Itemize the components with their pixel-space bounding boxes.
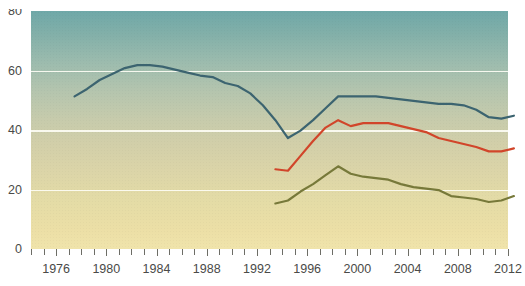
- x-tick: [106, 249, 107, 256]
- x-tick: [495, 249, 496, 255]
- x-tick: [357, 249, 358, 256]
- x-tick-label: 1996: [293, 262, 321, 276]
- y-tick-label: 20: [8, 183, 22, 197]
- series-lines: [62, 22, 525, 260]
- x-tick: [270, 249, 271, 255]
- x-tick: [470, 249, 471, 255]
- x-tick-label: 1980: [92, 262, 120, 276]
- x-tick: [207, 249, 208, 256]
- x-tick-label: 1976: [42, 262, 70, 276]
- x-tick-label: 2012: [494, 262, 522, 276]
- plot-area: [31, 11, 508, 249]
- x-tick: [244, 249, 245, 255]
- x-tick-label: 1992: [243, 262, 271, 276]
- x-tick: [219, 249, 220, 255]
- x-tick: [307, 249, 308, 256]
- x-tick: [257, 249, 258, 256]
- y-axis: 806040200: [0, 0, 26, 286]
- x-tick: [144, 249, 145, 255]
- x-tick-label: 2008: [444, 262, 472, 276]
- x-tick: [56, 249, 57, 256]
- y-tick-label: 0: [15, 242, 22, 256]
- x-tick-label: 2000: [343, 262, 371, 276]
- x-tick: [131, 249, 132, 255]
- x-tick: [433, 249, 434, 255]
- x-tick: [232, 249, 233, 255]
- series-red: [275, 120, 514, 171]
- x-tick: [194, 249, 195, 255]
- x-tick: [408, 249, 409, 256]
- x-tick: [508, 249, 509, 256]
- x-tick: [483, 249, 484, 255]
- x-tick: [295, 249, 296, 255]
- x-tick: [81, 249, 82, 255]
- x-axis: 1976198019841988199219962000200420082012: [31, 249, 508, 286]
- x-tick: [345, 249, 346, 255]
- x-tick: [332, 249, 333, 255]
- x-tick: [119, 249, 120, 255]
- x-tick: [382, 249, 383, 255]
- series-teal: [75, 65, 514, 138]
- x-tick-label: 1984: [143, 262, 171, 276]
- x-tick-label: 2004: [394, 262, 422, 276]
- x-tick: [44, 249, 45, 255]
- x-tick: [182, 249, 183, 255]
- y-tick-label: 40: [8, 123, 22, 137]
- x-tick-label: 1988: [193, 262, 221, 276]
- x-tick: [31, 249, 32, 255]
- chart-figure: 806040200 197619801984198819921996200020…: [0, 0, 525, 286]
- cropped-header-strip: [0, 0, 525, 9]
- x-tick: [169, 249, 170, 255]
- x-tick: [320, 249, 321, 255]
- x-tick: [282, 249, 283, 255]
- x-tick: [69, 249, 70, 255]
- x-tick: [370, 249, 371, 255]
- x-tick: [445, 249, 446, 255]
- y-tick-label: 60: [8, 64, 22, 78]
- x-tick: [157, 249, 158, 256]
- x-tick: [420, 249, 421, 255]
- x-tick: [458, 249, 459, 256]
- series-olive: [275, 166, 514, 203]
- x-tick: [94, 249, 95, 255]
- x-tick: [395, 249, 396, 255]
